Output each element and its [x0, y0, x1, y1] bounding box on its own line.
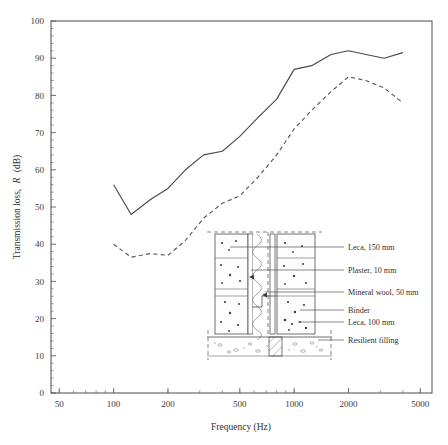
- y-tick-label: 20: [35, 314, 45, 324]
- y-tick-label: 40: [35, 239, 45, 249]
- inset-plaster-layer-right: [270, 234, 275, 334]
- inset-label-leca-150: Leca, 150 mm: [348, 243, 395, 252]
- y-tick-label: 70: [35, 128, 45, 138]
- svg-text:Transmission loss, R: Transmission loss, R (dB): [12, 155, 23, 259]
- x-tick-label: 100: [107, 399, 121, 409]
- y-tick-label: 30: [35, 277, 45, 287]
- x-tick-label: 5000: [411, 399, 430, 409]
- x-tick-label: 200: [161, 399, 175, 409]
- y-tick-label: 90: [35, 53, 45, 63]
- chart-svg: 0102030405060708090100 50100200500100020…: [0, 0, 448, 445]
- inset-label-plaster-10: Plaster, 10 mm: [348, 266, 397, 275]
- inset-label-mineral-wool-50: Mineral wool, 50 mm: [348, 288, 419, 297]
- y-tick-label: 10: [35, 351, 45, 361]
- y-tick-label: 100: [31, 16, 45, 26]
- inset-label-leca-100: Leca, 100 mm: [348, 318, 395, 327]
- inset-left-leca-block: [215, 234, 248, 334]
- x-axis-title-text: Frequency (Hz): [211, 422, 271, 433]
- inset-resilient-filling-block: [269, 337, 282, 356]
- y-tick-label: 50: [35, 202, 45, 212]
- y-axis-title: Transmission loss, R (dB): [12, 155, 23, 259]
- x-tick-label: 50: [55, 399, 65, 409]
- y-axis-title-symbol: R: [12, 177, 22, 184]
- chart-figure: 0102030405060708090100 50100200500100020…: [0, 0, 448, 445]
- y-tick-label: 60: [35, 165, 45, 175]
- y-axis-title-unit: (dB): [12, 155, 23, 172]
- x-axis-title: Frequency (Hz): [211, 422, 271, 433]
- inset-plaster-layer-left: [248, 234, 253, 334]
- x-tick-label: 1000: [285, 399, 304, 409]
- y-tick-label: 0: [40, 388, 45, 398]
- y-axis-title-main: Transmission loss,: [12, 189, 22, 259]
- x-tick-label: 2000: [340, 399, 359, 409]
- inset-right-leca-block: [277, 234, 315, 334]
- y-tick-label: 80: [35, 91, 45, 101]
- inset-label-binder: Binder: [348, 306, 370, 315]
- x-tick-label: 500: [233, 399, 247, 409]
- inset-label-resilient-filling: Resilient filling: [348, 336, 399, 345]
